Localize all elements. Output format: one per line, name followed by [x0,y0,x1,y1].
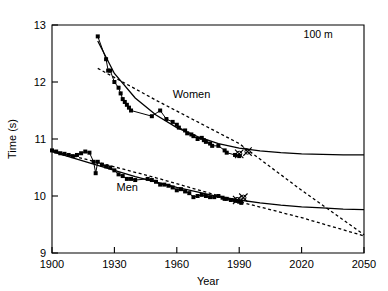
series-men [50,148,243,204]
panel-label-distance: 100 m [304,28,333,40]
data-series-layer [50,34,364,236]
series-women-linear-projection [98,68,364,234]
y-tick-13: 13 [34,19,46,31]
y-tick-11: 11 [35,133,46,145]
chart-figure: 910111213 190019301960199020202050 Time … [0,0,388,291]
series-label-women: Women [173,88,211,100]
y-tick-10: 10 [34,190,46,202]
hundred-meter-record-chart: 910111213 190019301960199020202050 Time … [0,0,388,291]
y-tick-12: 12 [34,76,46,88]
x-axis-tick-labels: 190019301960199020202050 [40,258,376,270]
x-axis-title: Year [197,275,220,287]
series-women-asymptotic-fit [98,41,364,155]
series-men-record-markers-x- [233,194,248,205]
x-tick-1900: 1900 [40,258,64,270]
series-label-men: Men [116,181,137,193]
axis-frame [52,25,364,253]
x-tick-2050: 2050 [352,258,376,270]
y-axis-title: Time (s) [6,119,18,159]
series-women [96,34,241,158]
axis-tick-marks [52,25,364,253]
x-tick-1930: 1930 [102,258,126,270]
x-tick-1960: 1960 [165,258,189,270]
x-tick-2020: 2020 [289,258,313,270]
x-tick-1990: 1990 [227,258,251,270]
y-axis-tick-labels: 910111213 [34,19,46,259]
